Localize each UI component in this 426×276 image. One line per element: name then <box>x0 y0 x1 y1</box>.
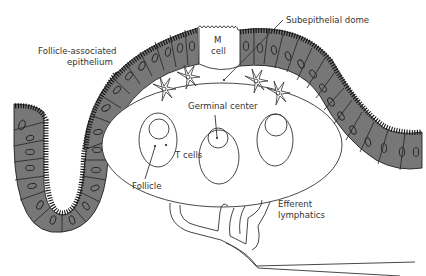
label-efferent-line1: Efferent <box>278 199 313 209</box>
label-fae-line1: Follicle-associated <box>38 46 117 56</box>
label-t-cells: T cells <box>174 150 203 160</box>
label-follicle: Follicle <box>132 181 161 191</box>
label-germinal-center: Germinal center <box>188 101 258 111</box>
label-m-cell-line1: M <box>214 35 221 45</box>
label-m-cell-line2: cell <box>211 46 226 56</box>
label-efferent-line2: lymphatics <box>278 210 325 220</box>
label-fae-line2: epithelium <box>67 57 113 67</box>
peyers-patch-diagram: Follicle-associated epithelium M cell Su… <box>0 0 426 276</box>
label-subepithelial-dome: Subepithelial dome <box>286 15 369 25</box>
